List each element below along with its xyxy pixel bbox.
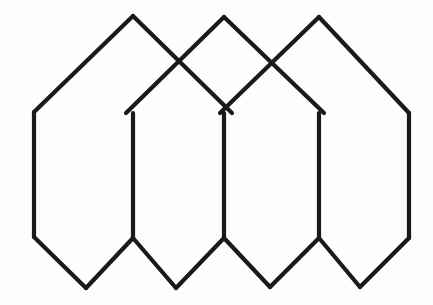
upper-right-slant-3	[319, 17, 409, 113]
hexagon-tessellation-drawing: Interlocking elongated hexagon tessellat…	[0, 0, 433, 305]
figure-canvas: Interlocking elongated hexagon tessellat…	[0, 0, 433, 305]
lower-left-slant-3	[224, 238, 270, 287]
line-segments-group	[34, 16, 409, 288]
lower-right-slant-4	[360, 238, 409, 287]
upper-left-slant-3	[220, 17, 319, 113]
lower-left-slant-1	[34, 237, 86, 288]
lower-right-slant-3	[270, 238, 319, 287]
lower-left-slant-2	[133, 238, 176, 288]
upper-right-slant-2	[224, 17, 324, 113]
upper-left-slant-2	[126, 17, 224, 113]
lower-left-slant-4	[319, 238, 360, 287]
lower-right-slant-1	[86, 238, 133, 288]
upper-right-slant-1	[133, 16, 232, 113]
lower-right-slant-2	[176, 238, 224, 288]
upper-left-slant-1	[34, 16, 133, 112]
